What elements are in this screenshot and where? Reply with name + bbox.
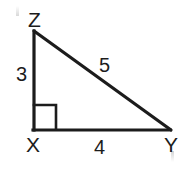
right-angle-marker — [34, 105, 56, 128]
vertex-label-x: X — [26, 134, 40, 155]
side-length-label-xz: 3 — [16, 64, 27, 84]
scan-artifact-top — [16, 6, 19, 16]
geometry-figure: Z X Y 3 5 4 — [0, 0, 190, 181]
side-length-label-zy: 5 — [99, 55, 110, 75]
vertex-label-y: Y — [164, 134, 178, 155]
triangle-side-zy — [34, 31, 171, 130]
vertex-label-z: Z — [28, 9, 41, 30]
side-length-label-xy: 4 — [94, 137, 105, 157]
